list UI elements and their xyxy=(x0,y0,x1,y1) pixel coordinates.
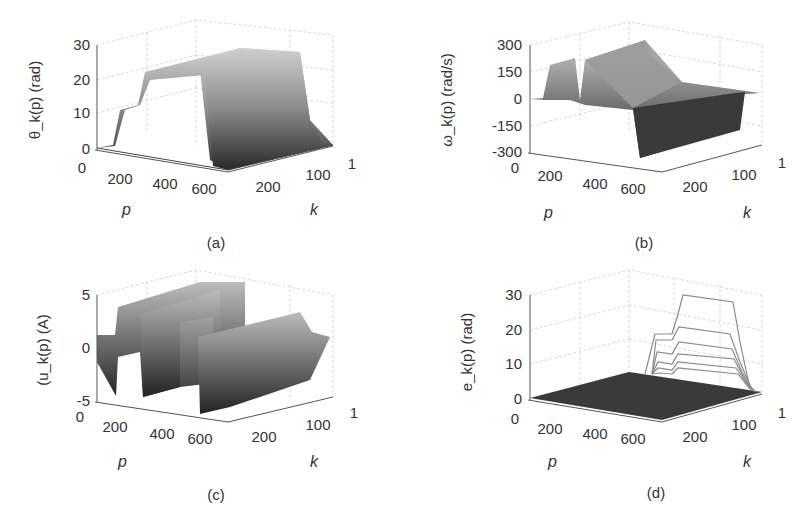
z-axis-label: θ_k(p) (rad) xyxy=(26,61,43,139)
z-tick: 30 xyxy=(505,286,522,303)
z-tick: 0 xyxy=(82,339,90,356)
x-tick: 600 xyxy=(191,180,216,197)
chart-panel-d: 30 20 10 0 0 200 400 600 1 100 200 p k e… xyxy=(400,262,799,524)
y-tick: 100 xyxy=(731,416,756,433)
x-tick: 200 xyxy=(107,170,132,187)
chart-panel-a: 30 20 10 0 0 200 400 600 1 100 200 p k θ… xyxy=(0,0,399,262)
z-tick: 0 xyxy=(514,390,522,407)
z-tick: 5 xyxy=(82,286,90,303)
z-tick: 30 xyxy=(73,36,90,53)
y-tick: 200 xyxy=(682,428,707,445)
y-axis-label: k xyxy=(743,204,752,221)
z-tick: 20 xyxy=(73,71,90,88)
surface-plot-omega: 300 150 0 -150 -300 0 200 400 600 1 100 … xyxy=(400,0,799,262)
z-tick: 150 xyxy=(497,63,522,80)
x-tick: 0 xyxy=(76,408,84,425)
line-plot-error: 30 20 10 0 0 200 400 600 1 100 200 p k e… xyxy=(400,262,799,525)
y-tick: 100 xyxy=(305,166,330,183)
y-tick: 1 xyxy=(778,154,786,171)
x-tick: 200 xyxy=(102,418,127,435)
caption: (c) xyxy=(207,486,225,503)
z-axis-label: ω_k(p) (rad/s) xyxy=(438,53,455,146)
surface-plot-current: 5 0 -5 0 200 400 600 1 100 200 p k (u_k(… xyxy=(0,262,399,525)
x-tick: 200 xyxy=(537,420,562,437)
x-tick: 600 xyxy=(620,430,645,447)
x-tick: 400 xyxy=(152,175,177,192)
y-tick: 100 xyxy=(731,166,756,183)
y-tick: 100 xyxy=(305,416,330,433)
z-tick: -150 xyxy=(492,117,522,134)
surface-plot-theta: 30 20 10 0 0 200 400 600 1 100 200 p k θ… xyxy=(0,0,399,262)
chart-panel-b: 300 150 0 -150 -300 0 200 400 600 1 100 … xyxy=(400,0,799,262)
chart-panel-c: 5 0 -5 0 200 400 600 1 100 200 p k (u_k(… xyxy=(0,262,399,524)
z-tick: -300 xyxy=(492,143,522,160)
x-tick: 0 xyxy=(511,159,519,176)
y-tick: 200 xyxy=(682,178,707,195)
y-tick: 1 xyxy=(778,404,786,421)
x-tick: 400 xyxy=(582,175,607,192)
y-tick: 1 xyxy=(348,155,356,172)
y-axis-label: k xyxy=(310,453,319,470)
x-axis-label: p xyxy=(543,204,553,221)
x-axis-label: p xyxy=(547,453,557,470)
z-tick: 0 xyxy=(82,140,90,157)
z-tick: 20 xyxy=(505,321,522,338)
x-axis-label: p xyxy=(121,201,131,218)
y-tick: 1 xyxy=(350,404,358,421)
z-axis-label: (u_k(p) (A) xyxy=(34,314,51,386)
z-tick: 300 xyxy=(497,36,522,53)
x-tick: 600 xyxy=(187,430,212,447)
z-tick: 0 xyxy=(514,90,522,107)
y-tick: 200 xyxy=(255,178,280,195)
z-tick: 10 xyxy=(73,104,90,121)
caption: (d) xyxy=(647,484,665,501)
z-tick: -5 xyxy=(77,392,90,409)
x-tick: 0 xyxy=(78,159,86,176)
z-axis-label: e_k(p) (rad) xyxy=(458,313,475,391)
y-axis-label: k xyxy=(310,201,319,218)
x-tick: 400 xyxy=(582,425,607,442)
x-axis-label: p xyxy=(117,453,127,470)
z-tick: 10 xyxy=(505,355,522,372)
x-tick: 200 xyxy=(537,167,562,184)
y-tick: 200 xyxy=(251,428,276,445)
x-tick: 0 xyxy=(511,410,519,427)
x-tick: 400 xyxy=(149,425,174,442)
x-tick: 600 xyxy=(620,180,645,197)
caption: (b) xyxy=(635,234,653,251)
y-axis-label: k xyxy=(743,453,752,470)
caption: (a) xyxy=(207,234,225,251)
